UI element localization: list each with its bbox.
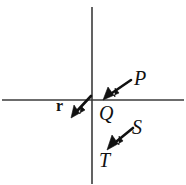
vector-label-q: Q	[99, 103, 113, 123]
vector-diagram-figure: r P Q S T	[0, 0, 186, 185]
vector-label-r: r	[56, 98, 63, 114]
vector-label-t: T	[99, 150, 110, 170]
vector-label-p: P	[134, 68, 146, 88]
vector-p	[103, 80, 131, 100]
vector-s	[107, 128, 133, 150]
vector-r-arrowhead	[71, 105, 85, 118]
vector-label-s: S	[132, 117, 142, 137]
axes-group	[2, 7, 184, 184]
diagram-canvas	[0, 0, 186, 185]
